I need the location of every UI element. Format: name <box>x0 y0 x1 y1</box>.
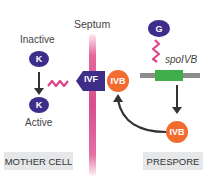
ivb-membrane-protein: IVB <box>107 70 129 92</box>
active-label: Active <box>25 117 52 128</box>
protein-k-inactive: K <box>29 51 49 67</box>
septum-label: Septum <box>74 18 110 30</box>
signal-squiggle-icon <box>47 78 71 90</box>
ivb-prespore-label: IVB <box>169 127 184 137</box>
secretion-curved-arrow-icon <box>110 92 170 140</box>
spoivb-gene-label: spoIVB <box>165 54 197 65</box>
protein-g-label: G <box>155 24 162 34</box>
gene-flank-right <box>183 73 200 78</box>
septum-membrane <box>89 34 96 176</box>
gene-flank-left <box>140 73 155 78</box>
protein-k-inactive-label: K <box>36 54 43 64</box>
prespore-box: PRESPORE <box>143 152 203 170</box>
ivf-label: IVF <box>84 74 98 84</box>
inactive-label: Inactive <box>20 34 54 45</box>
mother-cell-label: MOTHER CELL <box>5 156 73 167</box>
mother-cell-box: MOTHER CELL <box>4 152 73 170</box>
protein-g: G <box>148 20 170 37</box>
protein-k-active-label: K <box>36 100 43 110</box>
sigma-g-squiggle-icon <box>150 39 162 63</box>
activation-arrow-icon <box>32 72 46 96</box>
prespore-label: PRESPORE <box>147 156 200 167</box>
expression-arrow-icon <box>171 85 183 115</box>
protein-k-active: K <box>29 97 49 113</box>
ivb-membrane-label: IVB <box>110 76 125 86</box>
spoivb-gene-coding-region <box>155 70 183 81</box>
ivb-prespore-protein: IVB <box>166 121 188 143</box>
